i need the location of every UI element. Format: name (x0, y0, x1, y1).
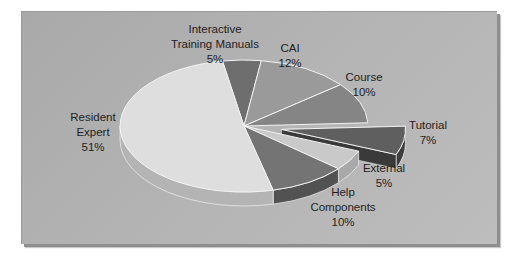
svg-text:51%: 51% (81, 141, 104, 153)
svg-text:5%: 5% (207, 53, 224, 65)
label-cai: CAI 12% (278, 42, 301, 69)
svg-text:7%: 7% (420, 134, 437, 146)
svg-text:External: External (363, 162, 405, 174)
svg-text:Tutorial: Tutorial (409, 119, 447, 131)
label-external: External 5% (363, 162, 405, 189)
svg-text:Help: Help (331, 186, 355, 198)
svg-text:CAI: CAI (280, 42, 299, 54)
label-tutorial: Tutorial 7% (409, 119, 447, 146)
svg-text:Resident: Resident (70, 111, 116, 123)
svg-text:10%: 10% (331, 216, 354, 228)
svg-text:Components: Components (310, 201, 375, 213)
pie-chart: Interactive Training Manuals 5% CAI 12% … (0, 0, 518, 258)
svg-text:Course: Course (345, 71, 382, 83)
svg-text:Interactive: Interactive (188, 23, 241, 35)
svg-text:5%: 5% (376, 177, 393, 189)
svg-text:12%: 12% (278, 57, 301, 69)
svg-text:10%: 10% (352, 86, 375, 98)
svg-text:Training Manuals: Training Manuals (171, 38, 259, 50)
label-interactive-training-manuals: Interactive Training Manuals 5% (171, 23, 259, 65)
svg-text:Expert: Expert (76, 126, 110, 138)
label-resident-expert: Resident Expert 51% (70, 111, 116, 153)
